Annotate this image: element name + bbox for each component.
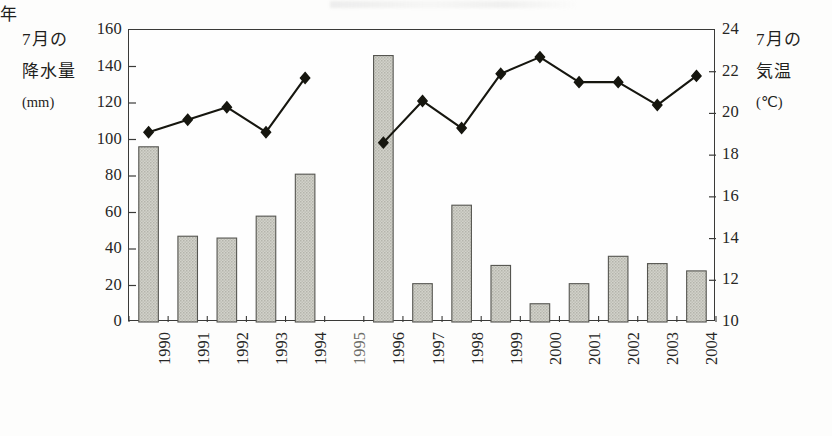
x-axis-title: 年: [0, 0, 832, 25]
bar: [413, 284, 433, 322]
bar: [256, 216, 276, 322]
x-tick-1997: 1997: [429, 332, 449, 365]
line-marker: [614, 77, 623, 88]
right-tick-24: 24: [722, 21, 739, 38]
right-axis-title: 7月の 気温 (℃): [756, 24, 802, 116]
right-tick-10: 10: [722, 313, 739, 330]
bar: [374, 56, 394, 322]
left-tick-40: 40: [105, 240, 122, 257]
bar: [648, 264, 668, 322]
x-tick-2000: 2000: [546, 332, 566, 365]
bar: [687, 271, 707, 322]
right-axis-title-line-1: 7月の: [756, 24, 802, 56]
bar: [530, 304, 550, 322]
left-tick-60: 60: [105, 203, 122, 220]
x-tick-2002: 2002: [624, 332, 644, 365]
x-tick-2003: 2003: [663, 332, 683, 365]
bar: [608, 256, 628, 322]
x-tick-2004: 2004: [702, 332, 722, 365]
left-tick-80: 80: [105, 167, 122, 184]
left-tick-140: 140: [97, 57, 122, 74]
right-tick-18: 18: [722, 146, 739, 163]
x-tick-1992: 1992: [233, 332, 253, 365]
bar: [217, 238, 237, 322]
plot-graphics: [129, 30, 716, 322]
right-tick-22: 22: [722, 62, 739, 79]
left-axis-title-line-1: 7月の: [22, 24, 76, 56]
bar: [178, 236, 198, 322]
left-tick-20: 20: [105, 276, 122, 293]
bar: [295, 174, 315, 322]
line-marker: [574, 77, 583, 88]
bar: [139, 147, 159, 322]
right-axis-unit: (℃): [756, 89, 802, 117]
x-axis-tick-labels: 1990199119921993199419951996199719981999…: [128, 330, 715, 408]
line-marker: [144, 127, 153, 138]
bar: [569, 284, 589, 322]
x-tick-1994: 1994: [311, 332, 331, 365]
right-axis-tick-labels: 1012141618202224: [722, 0, 762, 436]
x-tick-1990: 1990: [155, 332, 175, 365]
chart-figure: 7月の 降水量 (mm) 7月の 気温 (℃) 0204060801001201…: [0, 0, 832, 436]
line-marker: [653, 100, 662, 111]
left-tick-160: 160: [97, 21, 122, 38]
left-axis-title: 7月の 降水量 (mm): [22, 24, 76, 116]
x-tick-1999: 1999: [507, 332, 527, 365]
line-marker: [535, 52, 544, 63]
x-tick-1991: 1991: [194, 332, 214, 365]
left-axis-title-line-2: 降水量: [22, 56, 76, 88]
bar: [452, 205, 472, 322]
right-tick-16: 16: [722, 188, 739, 205]
x-tick-1996: 1996: [389, 332, 409, 365]
right-tick-12: 12: [722, 271, 739, 288]
left-tick-120: 120: [97, 94, 122, 111]
bar: [491, 265, 511, 322]
x-tick-1995: 1995: [350, 332, 370, 365]
line-marker: [222, 102, 231, 113]
x-tick-1998: 1998: [468, 332, 488, 365]
right-tick-20: 20: [722, 104, 739, 121]
line-series: [144, 52, 701, 148]
left-axis-tick-labels: 020406080100120140160: [78, 0, 122, 436]
left-tick-0: 0: [114, 313, 122, 330]
x-tick-2001: 2001: [585, 332, 605, 365]
left-axis-unit: (mm): [22, 89, 76, 117]
x-tick-1993: 1993: [272, 332, 292, 365]
right-tick-14: 14: [722, 229, 739, 246]
left-tick-100: 100: [97, 130, 122, 147]
right-axis-title-line-2: 気温: [756, 56, 802, 88]
line-marker: [692, 70, 701, 81]
line-marker: [183, 114, 192, 125]
plot-area: [128, 29, 715, 321]
